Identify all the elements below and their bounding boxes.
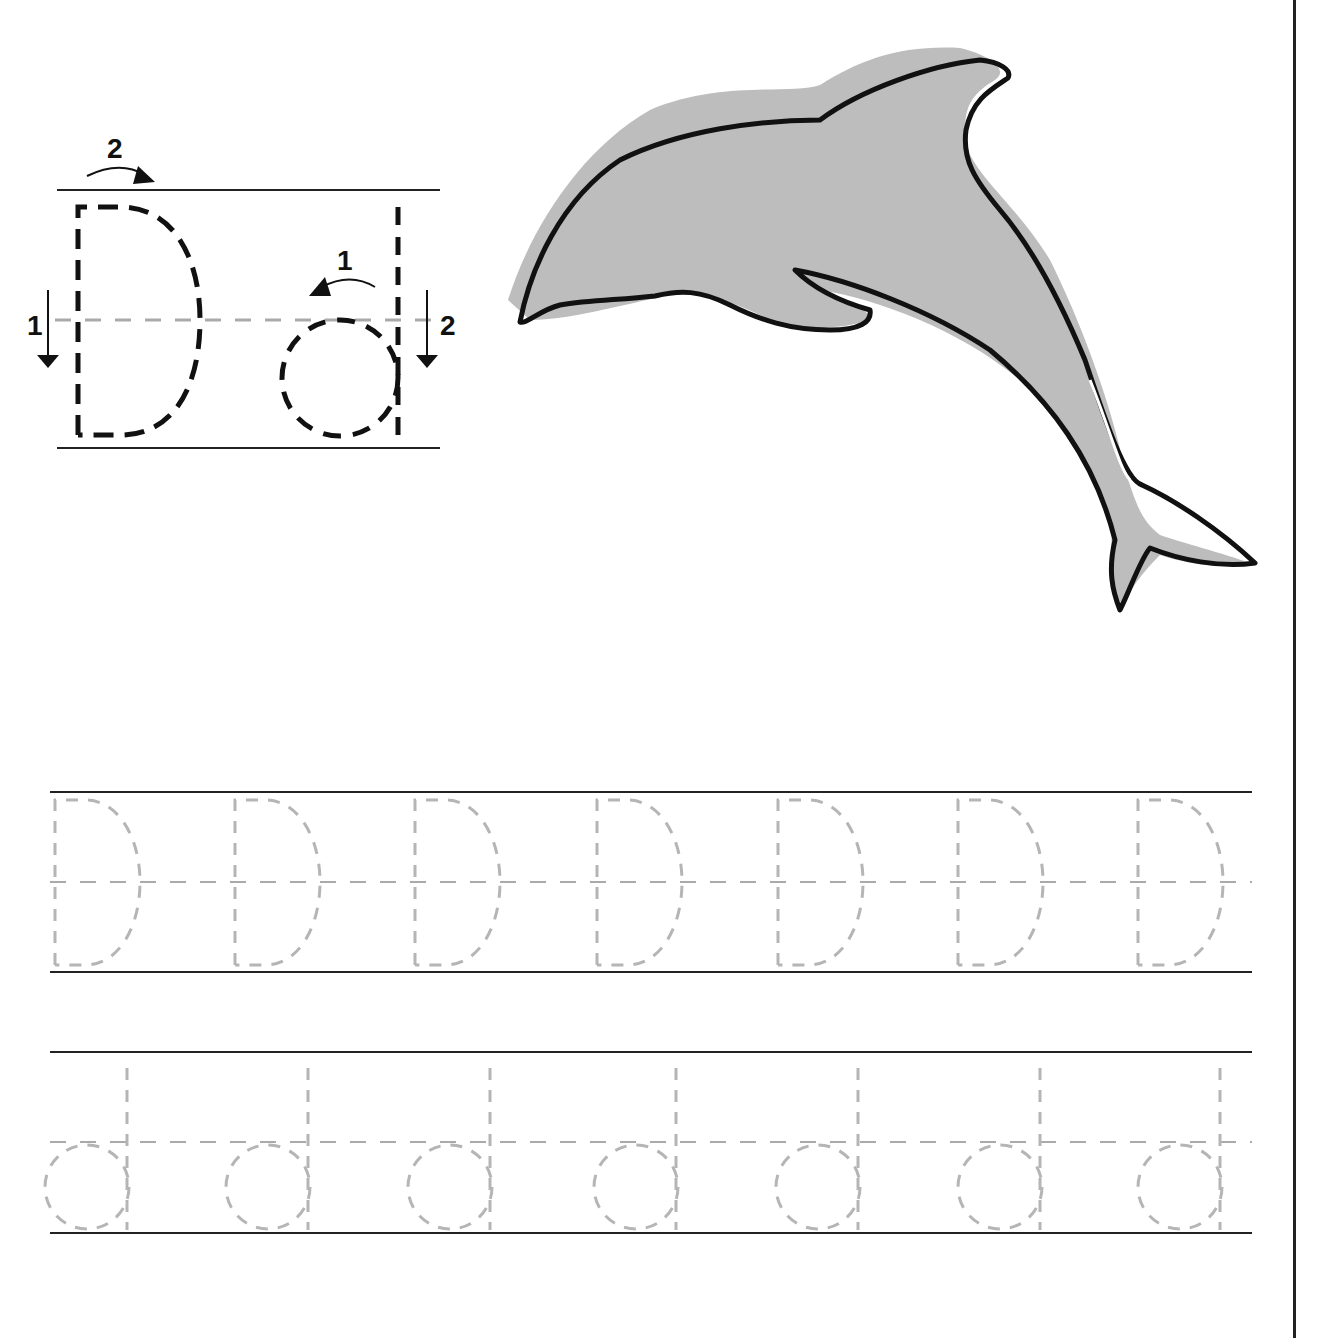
trace-letter-lower-d: [1138, 1068, 1222, 1230]
trace-letter-lower-d: [226, 1068, 310, 1230]
practice-row-lower[interactable]: [0, 0, 1340, 1338]
trace-letter-lower-d: [45, 1068, 129, 1230]
trace-letter-lower-d: [594, 1068, 678, 1230]
trace-letter-lower-d: [958, 1068, 1042, 1230]
trace-letter-lower-d: [408, 1068, 492, 1230]
trace-letter-lower-d: [776, 1068, 860, 1230]
